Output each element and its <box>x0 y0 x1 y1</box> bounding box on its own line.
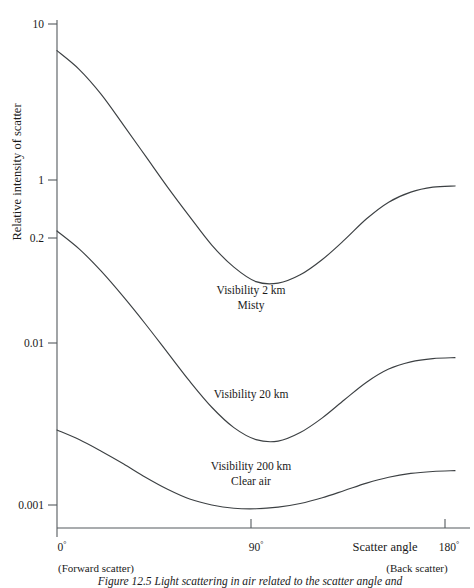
series-label-2km-line1: Visibility 2 km <box>217 284 286 297</box>
y-axis-ticks: 10 1 0.2 0.01 0.001 <box>18 18 57 511</box>
figure-caption: Figure 12.5 Light scattering in air rela… <box>97 575 403 588</box>
scatter-intensity-chart: 10 1 0.2 0.01 0.001 Relative intensity o… <box>0 0 474 588</box>
y-tick-label: 0.001 <box>18 499 44 511</box>
series-label-2km-line2: Misty <box>238 299 265 312</box>
curve-visibility-2km <box>57 51 455 284</box>
x-axis-sublabel-forward: (Forward scatter) <box>58 562 134 575</box>
y-tick-label: 10 <box>33 18 45 30</box>
series-label-200km-line1: Visibility 200 km <box>211 460 292 473</box>
x-tick-label-0: 0° <box>58 540 67 554</box>
series-label-20km-line1: Visibility 20 km <box>214 388 289 401</box>
curve-visibility-20km <box>57 231 455 442</box>
y-tick-label: 1 <box>38 174 44 186</box>
y-tick-label: 0.2 <box>30 232 45 244</box>
figure-container: 10 1 0.2 0.01 0.001 Relative intensity o… <box>0 0 474 588</box>
x-axis-title: Scatter angle <box>353 540 418 554</box>
y-axis-title: Relative intensity of scatter <box>10 103 24 241</box>
x-tick-label-180: 180° <box>439 540 459 554</box>
x-tick-label-90: 90° <box>249 540 264 554</box>
y-tick-label: 0.01 <box>24 337 44 349</box>
series-label-200km-line2: Clear air <box>231 475 271 487</box>
x-axis-sublabel-back: (Back scatter) <box>386 562 448 575</box>
